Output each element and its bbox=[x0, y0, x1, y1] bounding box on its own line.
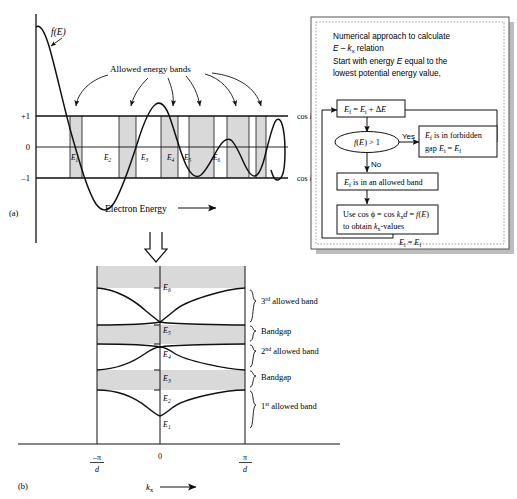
fe-label: f(E) bbox=[51, 27, 66, 38]
xtick-right: π d bbox=[239, 453, 252, 474]
flowchart-loop-label: Ei = Ef bbox=[398, 238, 421, 248]
intro-line-4: lowest potential energy value, bbox=[333, 69, 441, 78]
xtick-right-den: d bbox=[243, 465, 248, 474]
svg-text:Ef is in an allowed band: Ef is in an allowed band bbox=[343, 178, 423, 188]
band-braces-b bbox=[250, 290, 256, 428]
svg-text:Ef is in forbidden: Ef is in forbidden bbox=[424, 131, 482, 141]
intro-line-2: E – kx relation bbox=[333, 44, 384, 54]
band-annotation-3rd: 3rd allowed band bbox=[261, 296, 319, 306]
fe-pointer-line bbox=[51, 38, 62, 46]
allowed-energy-bands-label: Allowed energy bands bbox=[110, 64, 191, 74]
flowchart-box-increment: Ef = Ei + ΔE bbox=[337, 100, 405, 117]
figure-root: f(E) +1 0 –1 cos kxd = 1 cos kxd = –1 E1… bbox=[0, 0, 517, 499]
band-annotation-1st: 1st allowed band bbox=[261, 401, 318, 411]
xtick-left-den: d bbox=[95, 465, 100, 474]
flowchart-yes-label: Yes bbox=[402, 132, 415, 141]
x-ticks-b: –π d 0 π d bbox=[90, 452, 252, 474]
svg-text:f(E) > 1: f(E) > 1 bbox=[354, 138, 380, 147]
ytick-plus1: +1 bbox=[21, 111, 30, 121]
dispersion-curves-b bbox=[97, 288, 245, 416]
energy-label-E3: E3 bbox=[140, 153, 149, 163]
svg-text:Use cos ϕ = cos kxd = f(E): Use cos ϕ = cos kxd = f(E) bbox=[343, 210, 429, 220]
svg-text:gap Ei = Ef: gap Ei = Ef bbox=[425, 144, 461, 154]
energy-label-E2: E2 bbox=[103, 153, 112, 163]
band-annotation-bandgap-lower: Bandgap bbox=[261, 372, 291, 382]
xtick-left: –π d bbox=[90, 453, 104, 474]
flowchart-decision-fe: f(E) > 1 bbox=[335, 132, 399, 153]
panel-b: E6 E5 E4 E3 E2 E1 3rd allowed band Bandg… bbox=[18, 266, 340, 493]
xaxis-label-a: Electron Energy bbox=[105, 204, 167, 214]
ytick-minus1: –1 bbox=[21, 173, 31, 183]
energy-levels-b: E6 E5 E4 E3 E2 E1 bbox=[162, 283, 171, 430]
svg-text:to obtain kx-values: to obtain kx-values bbox=[343, 222, 404, 232]
intro-line-3: Start with energy E equal to the bbox=[333, 57, 448, 66]
energy-level-E4: E4 bbox=[162, 350, 171, 360]
band-annotations-b: 3rd allowed band Bandgap 2nd allowed ban… bbox=[261, 296, 319, 411]
energy-label-E6: E6 bbox=[212, 153, 221, 163]
flowchart-no-label: No bbox=[371, 160, 382, 169]
xtick-right-num: π bbox=[243, 453, 247, 462]
xtick-center: 0 bbox=[158, 452, 162, 461]
band-annotation-2nd: 2nd allowed band bbox=[261, 346, 319, 356]
xaxis-label-b: kx bbox=[146, 482, 154, 493]
flowchart-panel: Numerical approach to calculate E – kx r… bbox=[311, 17, 514, 254]
transition-down-arrow bbox=[145, 232, 167, 262]
flowchart-box-cos: Use cos ϕ = cos kxd = f(E) to obtain kx-… bbox=[337, 205, 438, 234]
flowchart-box-forbidden: Ef is in forbidden gap Ei = Ef bbox=[419, 126, 497, 157]
ytick-zero: 0 bbox=[26, 142, 30, 152]
band-shading-b bbox=[97, 266, 245, 390]
flowchart-box-allowed: Ef is in an allowed band bbox=[337, 173, 438, 190]
xtick-left-num: –π bbox=[92, 453, 101, 462]
intro-line-1: Numerical approach to calculate bbox=[333, 32, 450, 41]
panel-a-label: (a) bbox=[9, 208, 19, 218]
energy-level-E2: E2 bbox=[162, 394, 171, 404]
allowed-band-arrows bbox=[76, 73, 261, 106]
energy-level-E1: E1 bbox=[162, 420, 171, 430]
band-annotation-bandgap-upper: Bandgap bbox=[261, 326, 291, 336]
panel-b-label: (b) bbox=[18, 481, 28, 491]
panel-a: f(E) +1 0 –1 cos kxd = 1 cos kxd = –1 E1… bbox=[9, 14, 337, 243]
